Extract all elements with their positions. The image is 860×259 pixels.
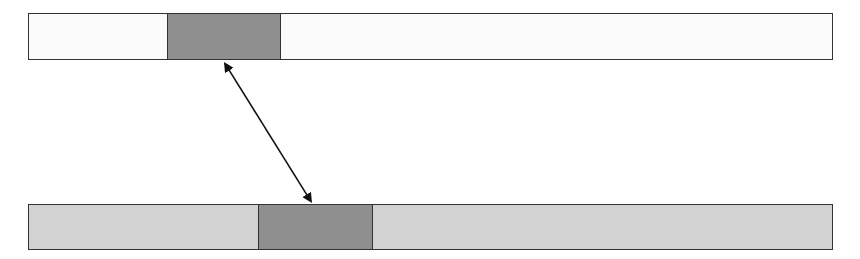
double-arrow-icon (0, 0, 860, 259)
